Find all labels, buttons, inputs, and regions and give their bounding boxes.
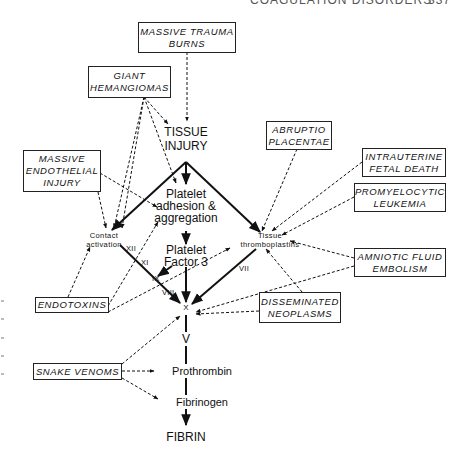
cause-box-disseminated-neoplasms: DISSEMINATED NEOPLASMS: [259, 292, 341, 323]
cause-box-abruptio-placentae: ABRUPTIO PLACENTAE: [266, 121, 332, 150]
cause-box-promyelocytic-leukemia: PROMYELOCYTIC LEUKEMIA: [354, 183, 446, 212]
node-tissue-injury: TISSUE INJURY: [164, 125, 207, 153]
cause-label: MASSIVE TRAUMA: [140, 26, 233, 38]
cause-label: INJURY: [43, 177, 81, 189]
factor-vii-label: VII: [239, 264, 249, 273]
node-fibrinogen: Fibrinogen: [176, 395, 228, 409]
cause-box-giant-hemangiomas: GIANT HEMANGIOMAS: [88, 66, 171, 98]
dashed-triggers: [68, 52, 362, 399]
cause-box-endotoxins: ENDOTOXINS: [35, 297, 109, 313]
cause-label: PLACENTAE: [268, 136, 329, 148]
cause-box-intrauterine-fetal-death: INTRAUTERINE FETAL DEATH: [362, 148, 446, 177]
node-fibrin: FIBRIN: [166, 430, 205, 444]
factor-ix-label: IX: [152, 274, 160, 283]
cause-label: LEUKEMIA: [374, 198, 427, 210]
node-label: TISSUE: [164, 125, 207, 139]
cause-label: SNAKE VENOMS: [36, 366, 119, 378]
node-platelet-factor-3: Platelet Factor 3: [164, 244, 208, 268]
node-tissue-thromboplastins: Tissue thromboplastins: [241, 231, 300, 249]
cause-label: EMBOLISM: [373, 263, 428, 275]
node-label: Tissue: [241, 231, 300, 240]
node-contact-activation: Contact activation: [86, 231, 122, 249]
cause-label: HEMANGIOMAS: [90, 82, 169, 94]
cause-label: ENDOTOXINS: [38, 299, 107, 311]
cause-label: DISSEMINATED: [261, 296, 339, 308]
cause-label: INTRAUTERINE: [365, 151, 442, 163]
cause-box-massive-trauma-burns: MASSIVE TRAUMA BURNS: [138, 22, 236, 53]
pathway-arrows: [0, 0, 462, 453]
factor-xi-label: XI: [141, 258, 149, 267]
node-label: Factor 3: [164, 256, 208, 268]
node-factor-x: X: [182, 303, 189, 312]
node-prothrombin: Prothrombin: [172, 364, 232, 378]
factor-xii-label: XII: [126, 244, 136, 253]
node-label: Contact: [86, 231, 122, 240]
factor-viii-label: VIII: [162, 288, 174, 297]
cause-label: MASSIVE: [39, 153, 85, 165]
node-label: aggregation: [154, 212, 217, 224]
cause-label: ENDOTHELIAL: [26, 165, 99, 177]
cause-box-massive-endothelial-injury: MASSIVE ENDOTHELIAL INJURY: [23, 150, 101, 192]
cause-label: ABRUPTIO: [272, 124, 325, 136]
node-platelet-adhesion: Platelet adhesion & aggregation: [154, 188, 217, 224]
cause-box-snake-venoms: SNAKE VENOMS: [33, 363, 122, 380]
node-label: activation: [86, 240, 122, 249]
cause-label: GIANT: [113, 70, 145, 82]
node-label: INJURY: [164, 139, 207, 153]
cause-label: BURNS: [169, 38, 205, 50]
node-label: thromboplastins: [241, 240, 300, 249]
cause-box-amniotic-fluid-embolism: AMNIOTIC FLUID EMBOLISM: [354, 248, 446, 277]
cause-label: PROMYELOCYTIC: [355, 186, 445, 198]
node-factor-v: V: [182, 332, 190, 346]
cause-label: NEOPLASMS: [268, 308, 333, 320]
cause-label: AMNIOTIC FLUID: [358, 251, 443, 263]
cause-label: FETAL DEATH: [369, 163, 438, 175]
